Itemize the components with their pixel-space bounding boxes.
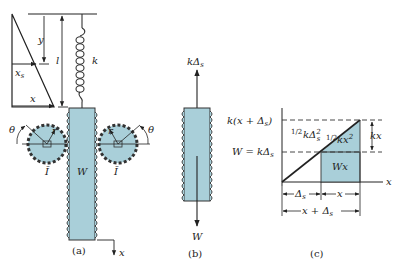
left-gear: [17, 125, 67, 163]
theta-right-label: θ: [148, 124, 154, 135]
inertia-left-label: Ī: [44, 166, 50, 177]
x-direction-arrow: [97, 240, 114, 255]
half-kds2-label: kΔ2s: [303, 128, 321, 143]
weight-label: W: [192, 231, 203, 242]
spring-force-label: kΔs: [187, 56, 204, 69]
caption-a: (a): [72, 245, 86, 256]
spring: [76, 14, 85, 108]
y-label: y: [37, 34, 44, 45]
figure-canvas: y l xs x k W: [0, 0, 405, 269]
k-label: k: [92, 55, 98, 66]
x-axis-label: x: [119, 247, 125, 258]
panel-b: kΔs W (b): [182, 56, 212, 259]
w-label: W: [77, 166, 88, 177]
panel-a: y l xs x k W: [9, 14, 154, 258]
caption-c: (c): [310, 248, 324, 259]
wx-label: Wx: [332, 161, 348, 172]
xs-label: xs: [15, 67, 25, 80]
half-kx2-fraction: 1/2: [326, 134, 337, 142]
half-kds2-fraction: 1/2: [291, 128, 302, 136]
mid-level-label: W = kΔs: [232, 146, 274, 159]
inertia-right-label: Ī: [113, 166, 119, 177]
l-label: l: [56, 55, 59, 66]
x-triangle-label: x: [30, 93, 36, 104]
x-axis-label-c: x: [386, 176, 392, 187]
x-dim-label: x: [337, 188, 343, 199]
kx-label: kx: [370, 130, 382, 141]
top-level-label: k(x + Δs): [227, 115, 272, 128]
theta-left-label: θ: [9, 124, 15, 135]
panel-c: x kx k(x + Δs) W = kΔs 1/2 kΔ2s 1/2 kx2 …: [227, 108, 392, 259]
right-gear: [99, 125, 150, 163]
caption-b: (b): [188, 248, 202, 259]
